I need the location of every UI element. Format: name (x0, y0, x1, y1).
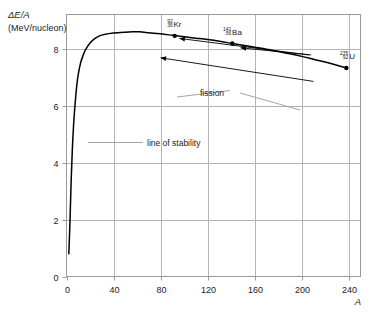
atomic-number: 92 (343, 54, 349, 60)
tick-label-x: 240 (342, 285, 357, 295)
y-axis-title: ΔE/A (7, 9, 30, 20)
nuclide-label-u: 23592U (340, 50, 355, 61)
atomic-number: 56 (226, 30, 232, 36)
chart-canvas: 04080120160200240 02468 9236Kr14156Ba235… (0, 0, 382, 313)
tick-label-x: 40 (109, 285, 119, 295)
element-symbol: Kr (173, 20, 181, 29)
tick-label-y: 6 (53, 102, 58, 112)
tick-label-y: 8 (53, 45, 58, 55)
tick-label-x: 160 (248, 285, 263, 295)
nuclide-label-kr: 9236Kr (167, 18, 182, 29)
line-of-stability-label: line of stability (147, 138, 201, 148)
tick-label-x: 120 (201, 285, 216, 295)
atomic-number: 36 (167, 22, 173, 28)
data-point-kr (172, 34, 176, 38)
tick-label-y: 0 (53, 273, 58, 283)
x-axis-title: A (354, 296, 361, 307)
y-axis-units: (MeV/nucleon) (8, 23, 67, 33)
binding-energy-chart: 04080120160200240 02468 9236Kr14156Ba235… (0, 0, 382, 313)
tick-label-x: 0 (65, 285, 70, 295)
tick-label-x: 80 (156, 285, 166, 295)
tick-label-x: 200 (295, 285, 310, 295)
data-point-ba (230, 41, 234, 45)
element-symbol: U (349, 52, 355, 61)
data-point-u (344, 66, 348, 70)
nuclide-label-ba: 14156Ba (223, 26, 242, 37)
tick-label-y: 2 (53, 216, 58, 226)
tick-label-y: 4 (53, 159, 58, 169)
element-symbol: Ba (232, 28, 242, 37)
fission-label: fission (200, 88, 224, 98)
